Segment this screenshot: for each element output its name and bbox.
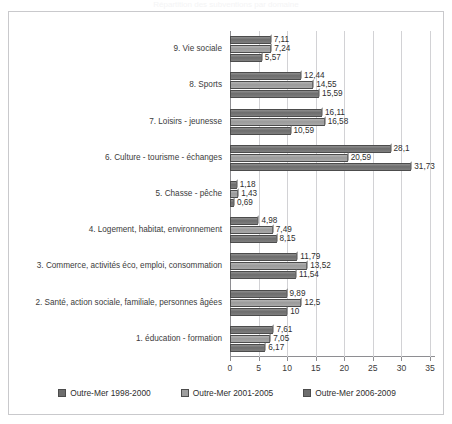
- bar-value-label: 7,24: [274, 45, 290, 53]
- bar: [230, 45, 271, 53]
- bar-value-label: 4,98: [261, 217, 277, 225]
- faded-title-strip: Répartition des subventions par domaine: [0, 0, 452, 9]
- bar: [230, 81, 313, 89]
- bar-group: 1,181,430,69: [230, 181, 435, 207]
- bar: [230, 199, 234, 207]
- bar-value-label: 20,59: [351, 154, 372, 162]
- tick-mark: [344, 357, 345, 361]
- bar-value-label: 28,1: [394, 145, 410, 153]
- chart-legend: Outre-Mer 1998-2000Outre-Mer 2001-2005Ou…: [9, 388, 445, 398]
- value-axis-ticks: 05101520253035: [230, 357, 440, 379]
- tick-mark: [430, 357, 431, 361]
- bar: [230, 118, 325, 126]
- bar-value-label: 7,49: [276, 226, 292, 234]
- category-label: 8. Sports: [11, 80, 222, 90]
- bar: [230, 90, 319, 98]
- bar: [230, 72, 301, 80]
- bar: [230, 54, 262, 62]
- bar: [230, 109, 322, 117]
- bar-group: 4,987,498,15: [230, 217, 435, 243]
- bar: [230, 344, 265, 352]
- category-label: 1. éducation - formation: [11, 334, 222, 344]
- category-label: 5. Chasse - pêche: [11, 189, 222, 199]
- bar-value-label: 12,44: [304, 72, 325, 80]
- tick-label: 20: [340, 363, 350, 373]
- legend-swatch-icon: [303, 389, 311, 397]
- bar-value-label: 0,69: [237, 199, 253, 207]
- bar: [230, 154, 348, 162]
- plot-area: 7,617,056,179,8912,51011,7913,5211,544,9…: [230, 31, 435, 357]
- bar: [230, 299, 301, 307]
- bar-value-label: 31,73: [414, 163, 435, 171]
- tick-label: 25: [368, 363, 378, 373]
- bar-value-label: 1,18: [240, 181, 256, 189]
- legend-swatch-icon: [181, 389, 189, 397]
- bar: [230, 335, 270, 343]
- tick-mark: [230, 357, 231, 361]
- bar: [230, 226, 273, 234]
- category-label: 6. Culture - tourisme - échanges: [11, 153, 222, 163]
- tick-mark: [316, 357, 317, 361]
- bar-group: 9,8912,510: [230, 290, 435, 316]
- bar-group: 16,1116,5810,59: [230, 109, 435, 135]
- category-label: 7. Loisirs - jeunesse: [11, 117, 222, 127]
- tick-label: 35: [425, 363, 435, 373]
- category-label: 9. Vie sociale: [11, 44, 222, 54]
- bar: [230, 271, 296, 279]
- tick-label: 15: [311, 363, 321, 373]
- category-label: 2. Santé, action sociale, familiale, per…: [11, 298, 222, 308]
- tick-label: 30: [397, 363, 407, 373]
- tick-label: 0: [228, 363, 233, 373]
- legend-swatch-icon: [58, 389, 66, 397]
- bar-value-label: 9,89: [290, 290, 306, 298]
- tick-mark: [373, 357, 374, 361]
- category-axis-labels: 1. éducation - formation2. Santé, action…: [11, 31, 226, 357]
- bar: [230, 217, 258, 225]
- bar-group: 7,617,056,17: [230, 326, 435, 352]
- bar-value-label: 7,61: [276, 326, 292, 334]
- legend-label: Outre-Mer 2006-2009: [315, 388, 396, 398]
- chart-frame: 1. éducation - formation2. Santé, action…: [8, 11, 444, 415]
- legend-item[interactable]: Outre-Mer 1998-2000: [58, 388, 151, 398]
- category-label: 4. Logement, habitat, environnement: [11, 225, 222, 235]
- legend-label: Outre-Mer 2001-2005: [193, 388, 274, 398]
- tick-mark: [287, 357, 288, 361]
- bar-value-label: 1,43: [241, 190, 257, 198]
- bar-value-label: 12,5: [304, 299, 320, 307]
- bar-value-label: 15,59: [322, 90, 343, 98]
- bar: [230, 127, 291, 135]
- bar-group: 28,120,5931,73: [230, 145, 435, 171]
- legend-item[interactable]: Outre-Mer 2006-2009: [303, 388, 396, 398]
- bar-value-label: 10: [290, 308, 299, 316]
- tick-label: 5: [256, 363, 261, 373]
- bar-value-label: 10,59: [294, 127, 315, 135]
- bar-value-label: 5,57: [265, 54, 281, 62]
- legend-item[interactable]: Outre-Mer 2001-2005: [181, 388, 274, 398]
- bar: [230, 290, 287, 298]
- bar-value-label: 7,05: [273, 335, 289, 343]
- bar-value-label: 13,52: [310, 262, 331, 270]
- bar: [230, 308, 287, 316]
- bar: [230, 253, 297, 261]
- bar: [230, 326, 273, 334]
- bar: [230, 36, 271, 44]
- bar: [230, 145, 391, 153]
- bar: [230, 163, 411, 171]
- plot-wrapper: 1. éducation - formation2. Santé, action…: [9, 12, 445, 416]
- chart-container: Répartition des subventions par domaine …: [0, 0, 452, 424]
- bar-value-label: 8,15: [280, 235, 296, 243]
- bar-value-label: 11,79: [300, 253, 320, 261]
- bar-value-label: 6,17: [268, 344, 284, 352]
- bar-group: 7,117,245,57: [230, 36, 435, 62]
- bar-value-label: 11,54: [299, 271, 319, 279]
- bar-value-label: 7,11: [274, 36, 289, 44]
- tick-label: 10: [282, 363, 292, 373]
- bar-group: 12,4414,5515,59: [230, 72, 435, 98]
- bar-value-label: 16,11: [325, 109, 345, 117]
- bar-value-label: 16,58: [328, 118, 349, 126]
- category-label: 3. Commerce, activités éco, emploi, cons…: [11, 261, 222, 271]
- bar: [230, 235, 277, 243]
- bar: [230, 181, 237, 189]
- tick-mark: [259, 357, 260, 361]
- bar-group: 11,7913,5211,54: [230, 253, 435, 279]
